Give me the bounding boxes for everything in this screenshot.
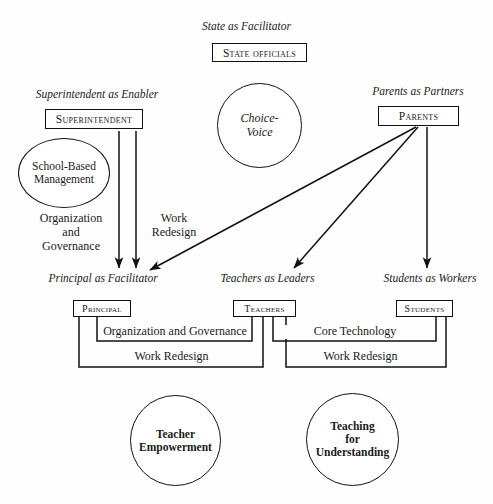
label-work-redesign-vertical-line1: Work (136, 212, 212, 226)
node-teachers-label: Teachers (244, 303, 284, 314)
label-work-redesign-left: Work Redesign (94, 350, 249, 364)
circle-teacher-empowerment-line2: Empowerment (139, 441, 212, 454)
node-students[interactable]: Students (396, 300, 453, 317)
diagram-canvas: State as Facilitator Superintendent as E… (0, 0, 493, 504)
label-org-gov-line2: and (26, 226, 116, 240)
circle-sbm-line2: Management (32, 173, 96, 186)
node-principal[interactable]: Principal (73, 300, 131, 317)
circle-teaching-understanding-line2: for (316, 433, 390, 446)
label-org-gov-line3: Governance (26, 240, 116, 254)
label-core-technology: Core Technology (285, 325, 425, 339)
node-superintendent-label: Superintendent (56, 113, 132, 125)
node-superintendent[interactable]: Superintendent (45, 109, 143, 129)
node-students-label: Students (405, 303, 445, 314)
label-organization-and-governance: Organization and Governance (100, 325, 250, 339)
circle-choice-voice[interactable]: Choice- Voice (217, 83, 302, 168)
label-work-redesign-vertical: Work Redesign (136, 212, 212, 240)
node-principal-label: Principal (82, 303, 122, 314)
circle-teaching-for-understanding[interactable]: Teaching for Understanding (306, 393, 399, 486)
circle-sbm-line1: School-Based (32, 160, 96, 173)
circle-teaching-understanding-line1: Teaching (316, 420, 390, 433)
caption-students-as-workers: Students as Workers (368, 272, 492, 284)
circle-school-based-management[interactable]: School-Based Management (18, 138, 110, 208)
caption-teachers-as-leaders: Teachers as Leaders (205, 272, 330, 284)
circle-teacher-empowerment[interactable]: Teacher Empowerment (130, 395, 221, 486)
caption-state-as-facilitator: State as Facilitator (0, 20, 493, 32)
circle-teacher-empowerment-line1: Teacher (139, 428, 212, 441)
node-parents-label: Parents (399, 110, 439, 122)
label-organization-and-governance-vertical: Organization and Governance (26, 212, 116, 253)
node-teachers[interactable]: Teachers (233, 300, 296, 317)
circle-choice-voice-line1: Choice- (241, 112, 279, 125)
caption-parents-as-partners: Parents as Partners (348, 85, 488, 97)
circle-choice-voice-line2: Voice (241, 126, 279, 139)
circle-teaching-understanding-line3: Understanding (316, 446, 390, 459)
caption-superintendent-as-enabler: Superintendent as Enabler (14, 88, 180, 100)
node-state-officials-label: State officials (223, 47, 296, 59)
node-parents[interactable]: Parents (378, 106, 459, 126)
label-work-redesign-right: Work Redesign (288, 350, 433, 364)
label-work-redesign-vertical-line2: Redesign (136, 226, 212, 240)
caption-principal-as-facilitator: Principal as Facilitator (13, 272, 193, 284)
label-org-gov-line1: Organization (26, 212, 116, 226)
edge-parents-to-teachers (294, 127, 418, 268)
node-state-officials[interactable]: State officials (212, 43, 307, 62)
